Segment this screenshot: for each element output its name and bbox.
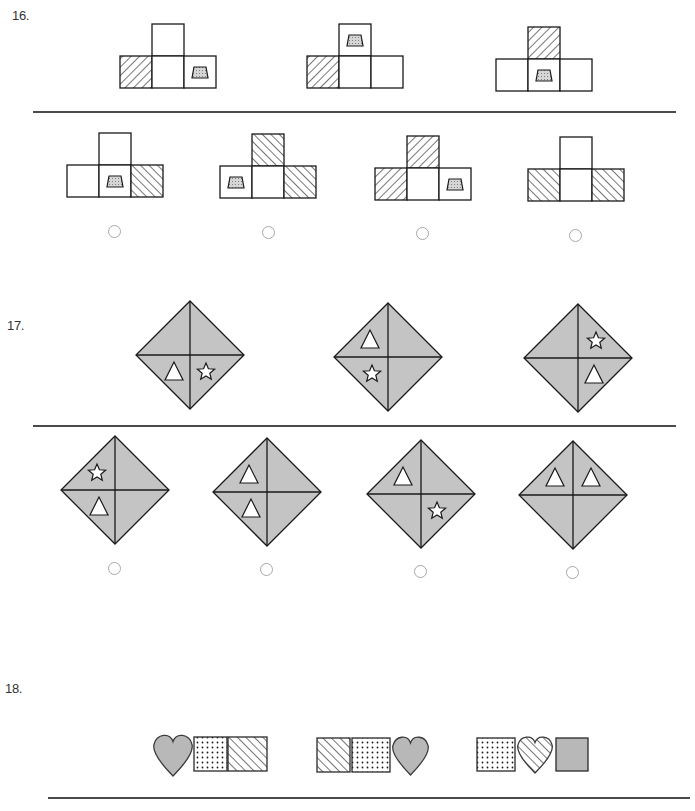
cell-top-blank [560, 137, 592, 169]
cell-left-hatch-fwd [528, 169, 560, 201]
cell-center-blank [339, 56, 371, 88]
trapezoid-icon [347, 35, 363, 46]
square-hatch-fwd-icon [317, 738, 350, 772]
q17-option-figure-4 [519, 441, 627, 549]
trapezoid-icon [447, 179, 463, 190]
cell-right-blank [560, 59, 592, 91]
q18-prompt-figure-2 [317, 737, 428, 775]
q17-option-figure-2 [213, 438, 321, 546]
q17-divider [33, 425, 676, 427]
cell-right-hatch-fwd [592, 169, 624, 201]
q16-option-1-radio[interactable] [108, 225, 121, 238]
trapezoid-icon [107, 176, 123, 187]
heart-gray-icon [154, 735, 192, 776]
cell-center-blank [252, 166, 284, 198]
cell-left-blank [67, 165, 99, 197]
cell-top-hatch-back [407, 136, 439, 168]
q16-prompt-figure-2 [307, 24, 403, 88]
q16-option-figure-3 [375, 136, 471, 200]
square-dots-icon [352, 738, 390, 772]
q16-option-3-radio[interactable] [416, 227, 429, 240]
q18-prompt-figure-3 [477, 737, 588, 773]
q16-prompt-figure-3 [496, 27, 592, 91]
q16-prompt-figure-1 [120, 24, 216, 88]
square-gray-icon [556, 738, 588, 771]
figures-canvas [0, 0, 695, 811]
q18-prompt-figure-1 [154, 735, 267, 776]
trapezoid-icon [192, 67, 208, 78]
square-dots-icon [477, 738, 515, 771]
q17-prompt-figure-3 [524, 304, 632, 412]
q17-option-figure-1 [61, 436, 169, 544]
cell-right-hatch-fwd [131, 165, 163, 197]
cell-left-hatch-back [120, 56, 152, 88]
cell-left-hatch-back [375, 168, 407, 200]
q17-option-figure-3 [367, 440, 475, 548]
heart-hatch-fwd-icon [518, 737, 553, 773]
q16-option-2-radio[interactable] [262, 226, 275, 239]
cell-right-blank [371, 56, 403, 88]
cell-top-blank [99, 133, 131, 165]
worksheet-page [0, 0, 695, 811]
q17-option-3-radio[interactable] [414, 565, 427, 578]
q16-option-figure-2 [220, 134, 316, 198]
cell-left-blank [496, 59, 528, 91]
cell-left-hatch-back [307, 56, 339, 88]
heart-gray-icon [393, 737, 429, 775]
cell-right-hatch-fwd [284, 166, 316, 198]
cell-center-blank [407, 168, 439, 200]
cell-top-hatch-back [528, 27, 560, 59]
cell-top-hatch-fwd [252, 134, 284, 166]
trapezoid-icon [228, 177, 244, 188]
q17-prompt-figure-1 [136, 301, 244, 409]
square-hatch-fwd-icon [228, 737, 267, 771]
q18-divider [48, 797, 690, 799]
q16-option-figure-4 [528, 137, 624, 201]
square-dots-icon [194, 737, 227, 771]
q17-option-1-radio[interactable] [108, 562, 121, 575]
cell-center-blank [560, 169, 592, 201]
trapezoid-icon [536, 70, 552, 81]
q17-option-2-radio[interactable] [260, 563, 273, 576]
q17-option-4-radio[interactable] [566, 566, 579, 579]
q16-divider [33, 111, 676, 113]
q16-option-4-radio[interactable] [569, 229, 582, 242]
cell-top-blank [152, 24, 184, 56]
cell-center-blank [152, 56, 184, 88]
q16-option-figure-1 [67, 133, 163, 197]
q17-prompt-figure-2 [334, 303, 442, 411]
